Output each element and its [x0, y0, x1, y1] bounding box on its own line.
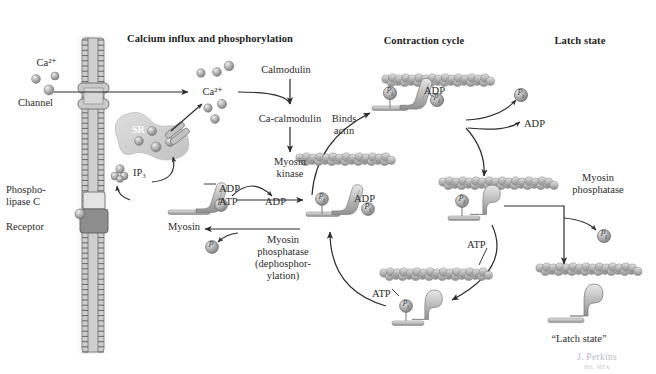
sarcoplasmic-reticulum — [115, 104, 202, 160]
phosphate-label: Pi — [364, 203, 371, 213]
label-latch-state-caption: “Latch state” — [551, 333, 606, 344]
label-ca-cytosolic: Ca²⁺ — [203, 86, 224, 97]
label-binds-actin-line2: actin — [334, 125, 354, 136]
label-ca-extracellular: Ca²⁺ — [37, 57, 58, 68]
phosphate-label: Pi — [458, 195, 465, 205]
label-adp-released: ADP — [524, 118, 545, 129]
diagram-artwork — [0, 0, 656, 374]
phosphate-label: P — [208, 241, 213, 250]
actin-filament-left — [296, 153, 395, 166]
header-latch-state: Latch state — [555, 35, 606, 46]
ip3-molecule — [111, 165, 128, 183]
arrow-ca-to-calmodulin-join — [238, 92, 290, 104]
myosin-cycle-right — [448, 185, 500, 220]
arrow-release-adp — [468, 122, 520, 129]
label-myosin-phosphatase-line4: ylation) — [267, 270, 300, 281]
label-myosin-kinase-line2: kinase — [277, 168, 304, 179]
credit-name: J. Perkins — [577, 352, 617, 362]
label-ip3: IP₃ — [133, 167, 146, 178]
arrow-release-phosphate — [466, 100, 516, 120]
label-atp-cycle-right: ATP — [467, 239, 486, 250]
label-adp-kinase: ADP — [265, 196, 286, 207]
label-myosin-phosphatase-line3: (dephosphor- — [255, 258, 311, 269]
arrow-phosphate-release — [218, 233, 238, 242]
arrow-to-latch-state — [504, 206, 564, 264]
phosphate-label: Pi — [318, 193, 325, 203]
phosphate-label: Pi — [402, 300, 409, 310]
label-phospholipase-c-line1: Phospho- — [6, 184, 46, 195]
phosphate-label: Pi — [386, 87, 393, 97]
arrow-atp-binding — [452, 225, 497, 300]
figure-canvas: Calcium influx and phosphorylation Contr… — [0, 0, 656, 374]
arrow-plc-to-ip3 — [117, 186, 130, 200]
arrow-sr-release — [171, 104, 202, 131]
label-latch-phosphatase-line2: phosphatase — [572, 184, 623, 195]
arrow-latch-phosphate-release — [564, 218, 596, 230]
label-latch-phosphatase-line1: Myosin — [582, 172, 614, 183]
label-myosin-kinase-line1: Myosin — [274, 156, 306, 167]
receptor-icon — [75, 209, 108, 233]
myosin-latch-state — [548, 284, 603, 323]
label-binds-actin-line1: Binds — [332, 113, 357, 124]
label-ca-calmodulin: Ca-calmodulin — [259, 113, 321, 124]
phospholipase-c-icon — [83, 192, 105, 209]
phosphate-label: Pi — [517, 89, 524, 99]
header-calcium-influx: Calcium influx and phosphorylation — [127, 33, 293, 44]
label-myosin-phosphatase-line2: phosphatase — [257, 246, 308, 257]
label-atp-cycle-bottom: ATP — [372, 288, 391, 299]
label-adp-myosin: ADP — [219, 183, 240, 194]
myosin-cycle-bottom — [392, 290, 442, 325]
actin-filament-bottom — [380, 268, 493, 281]
header-contraction-cycle: Contraction cycle — [384, 35, 465, 46]
label-myosin: Myosin — [168, 221, 200, 232]
actin-filament-latch — [536, 263, 642, 276]
phosphate-label: Pi — [433, 94, 440, 104]
phosphate-label: Pi — [600, 230, 607, 240]
phosphate-label: P — [217, 199, 222, 208]
label-myosin-phosphatase-line1: Myosin — [267, 234, 299, 245]
label-channel: Channel — [18, 97, 53, 108]
label-phospholipase-c-line2: lipase C — [6, 196, 40, 207]
arrow-ip3-to-sr — [152, 157, 174, 182]
label-calmodulin: Calmodulin — [261, 64, 311, 75]
label-sr: SR — [132, 125, 145, 136]
arrow-powerstroke-to-rigor — [466, 128, 484, 176]
credit-degrees: MS, MFA — [584, 364, 610, 370]
label-receptor: Receptor — [6, 221, 44, 232]
